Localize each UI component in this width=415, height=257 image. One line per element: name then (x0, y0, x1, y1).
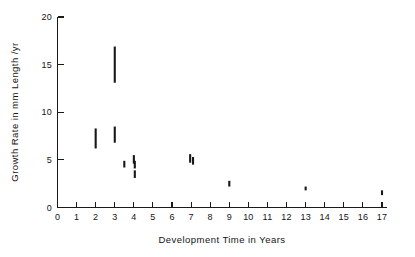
x-tick-label-6: 6 (169, 212, 174, 222)
x-tick-label-11: 11 (263, 212, 273, 222)
x-tick-label-17: 17 (377, 212, 387, 222)
y-tick-label-5: 5 (47, 155, 52, 165)
y-tick-label-20: 20 (42, 12, 52, 22)
x-tick-label-16: 16 (358, 212, 368, 222)
x-tick-label-9: 9 (227, 212, 232, 222)
x-tick-label-3: 3 (112, 212, 117, 222)
x-tick-label-0: 0 (55, 212, 60, 222)
y-tick-label-15: 15 (42, 60, 52, 70)
x-tick-label-5: 5 (150, 212, 155, 222)
chart-figure: 05101520 01234567891011121314151617 Deve… (0, 0, 415, 257)
x-tick-label-10: 10 (243, 212, 253, 222)
x-axis-title: Development Time in Years (159, 234, 286, 245)
x-tick-label-2: 2 (93, 212, 98, 222)
x-tick-label-4: 4 (131, 212, 136, 222)
y-axis-title: Growth Rate in mm Length /yr (9, 42, 20, 181)
x-tick-label-13: 13 (300, 212, 310, 222)
x-axis-ticks: 01234567891011121314151617 (55, 202, 387, 222)
x-tick-label-8: 8 (208, 212, 213, 222)
x-tick-label-14: 14 (320, 212, 330, 222)
x-tick-label-15: 15 (339, 212, 349, 222)
data-points-layer (96, 47, 382, 196)
x-tick-label-12: 12 (281, 212, 291, 222)
axis-lines (57, 17, 387, 208)
x-tick-label-1: 1 (74, 212, 79, 222)
growth-rate-scatter-chart: 05101520 01234567891011121314151617 Deve… (0, 0, 415, 257)
y-tick-label-0: 0 (47, 203, 52, 213)
y-tick-label-10: 10 (42, 107, 52, 117)
x-tick-label-7: 7 (189, 212, 194, 222)
y-axis-ticks: 05101520 (42, 12, 64, 213)
